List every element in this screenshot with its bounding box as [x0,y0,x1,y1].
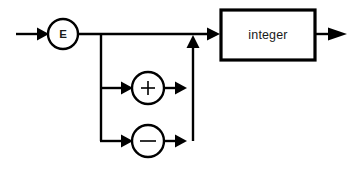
branch-merge-up-arrowhead-icon [187,35,200,48]
node-integer-label: integer [248,28,287,42]
railroad-diagram: E + − integer [0,0,364,181]
exit-rail [315,28,347,41]
main-rail [78,28,220,41]
minus-branch-out-arrowhead-icon [175,135,187,148]
integer-entry-arrowhead-icon [207,28,220,41]
node-e[interactable]: E [48,19,78,49]
node-e-label: E [59,28,67,40]
branch-right-spine [187,35,200,141]
syntax-diagram-canvas: E + − integer [0,0,364,181]
exit-arrowhead-icon [328,28,347,41]
node-minus[interactable]: − [132,125,164,157]
plus-branch-out-arrowhead-icon [175,82,187,95]
node-integer[interactable]: integer [221,10,315,60]
node-plus[interactable]: + [132,72,164,104]
entry-rail [16,28,49,41]
